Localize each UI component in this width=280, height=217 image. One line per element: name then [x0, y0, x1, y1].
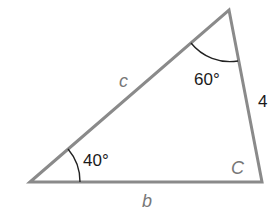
angle-arc-60	[191, 43, 238, 62]
triangle-diagram: c 60° 4 40° C b	[0, 0, 280, 217]
side-c-label: c	[119, 71, 128, 91]
angle-bottom-left-label: 40°	[83, 151, 109, 170]
triangle-outline	[30, 10, 262, 182]
side-b-label: b	[142, 191, 152, 211]
angle-top-label: 60°	[194, 70, 220, 89]
side-a-label: 4	[258, 92, 267, 111]
angle-arc-40	[68, 149, 80, 182]
angle-bottom-right-label: C	[231, 158, 245, 178]
